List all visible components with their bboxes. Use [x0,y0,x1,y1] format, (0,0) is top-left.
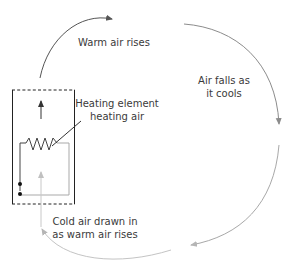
label-cold-air-line2: as warm air rises [52,229,137,240]
label-air-falls-line1: Air falls as [198,75,250,86]
air-cooling-arrow [184,24,279,124]
circuit-return-wire [20,143,69,195]
convection-diagram: Warm air rises Air falls as it cools Hea… [0,0,293,272]
label-cold-air-line1: Cold air drawn in [53,216,138,227]
terminal-dot [18,192,22,196]
air-falling-arrow [191,145,279,245]
label-air-falls-line2: it cools [206,88,242,99]
terminal-dot [18,182,22,186]
heater-unit [12,90,81,227]
heating-element-pointer [52,121,81,146]
heating-element-resistor [20,138,57,191]
label-heating-element-line1: Heating element [75,98,159,109]
label-warm-air-rises: Warm air rises [78,37,150,48]
label-heating-element-line2: heating air [90,111,145,122]
